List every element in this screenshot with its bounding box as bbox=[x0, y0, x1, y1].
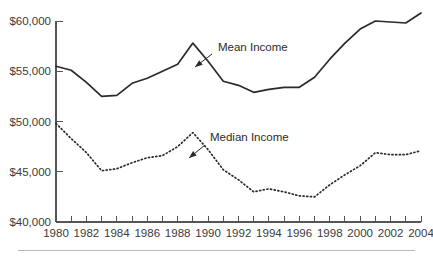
y-tick-label: $50,000 bbox=[9, 116, 51, 128]
y-axis: $40,000$45,000$50,000$55,000$60,000 bbox=[9, 15, 63, 228]
x-tick-label: 1984 bbox=[104, 227, 130, 239]
x-tick-label: 1996 bbox=[287, 227, 313, 239]
x-tick-label: 1986 bbox=[134, 227, 160, 239]
x-tick-label: 1980 bbox=[43, 227, 69, 239]
y-tick-label: $55,000 bbox=[9, 65, 51, 77]
x-tick-label: 1990 bbox=[195, 227, 221, 239]
x-axis: 1980198219841986198819901992199419961998… bbox=[43, 216, 433, 239]
y-tick-label: $45,000 bbox=[9, 166, 51, 178]
chart-canvas: $40,000$45,000$50,000$55,000$60,000 1980… bbox=[0, 0, 433, 257]
income-trend-chart: $40,000$45,000$50,000$55,000$60,000 1980… bbox=[0, 0, 433, 257]
x-tick-label: 2000 bbox=[347, 227, 373, 239]
y-tick-label: $60,000 bbox=[9, 15, 51, 27]
annotation-label-median-income: Median Income bbox=[210, 131, 289, 143]
x-tick-label: 1982 bbox=[74, 227, 100, 239]
series-annotations: Mean IncomeMedian Income bbox=[189, 41, 289, 158]
annotation-label-mean-income: Mean Income bbox=[218, 41, 288, 53]
x-tick-label: 1998 bbox=[317, 227, 343, 239]
x-tick-label: 2004 bbox=[408, 227, 433, 239]
x-tick-label: 1992 bbox=[226, 227, 252, 239]
annotation-arrow-median-income bbox=[189, 151, 197, 158]
x-tick-label: 1994 bbox=[256, 227, 282, 239]
x-tick-label: 1988 bbox=[165, 227, 191, 239]
x-tick-label: 2002 bbox=[378, 227, 404, 239]
series-line-mean-income bbox=[56, 13, 421, 96]
annotation-arrow-mean-income bbox=[195, 60, 203, 67]
